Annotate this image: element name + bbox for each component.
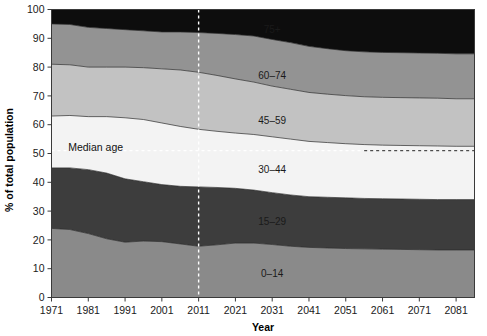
y-tick-label-70: 70: [33, 90, 45, 102]
band-label-75+: 75+: [264, 24, 281, 35]
x-tick-label-2021: 2021: [224, 304, 248, 316]
band-label-30-44: 30–44: [258, 164, 286, 175]
y-tick-label-40: 40: [33, 176, 45, 188]
y-tick-label-30: 30: [33, 205, 45, 217]
x-tick-label-2041: 2041: [297, 304, 321, 316]
x-tick-label-2011: 2011: [187, 304, 210, 316]
y-axis: 0102030405060708090100: [27, 3, 52, 303]
annotation-median-age: Median age: [68, 141, 123, 153]
y-tick-label-20: 20: [33, 234, 45, 246]
x-axis: 1971198119912001201120212031204120512061…: [40, 298, 468, 316]
y-tick-label-10: 10: [33, 262, 45, 274]
y-tick-label-90: 90: [33, 32, 45, 44]
x-tick-label-2061: 2061: [371, 304, 395, 316]
y-axis-title: % of total population: [3, 108, 15, 212]
band-label-45-59: 45–59: [258, 115, 286, 126]
annotations: Median age: [68, 141, 123, 153]
x-tick-label-1981: 1981: [77, 304, 101, 316]
band-label-15-29: 15–29: [258, 216, 286, 227]
band-label-0-14: 0–14: [261, 268, 284, 279]
x-tick-label-2081: 2081: [444, 304, 468, 316]
stacked-area-chart: 0102030405060708090100 19711981199120012…: [0, 0, 487, 336]
band-label-60-74: 60–74: [258, 70, 286, 81]
y-tick-label-80: 80: [33, 61, 45, 73]
x-tick-label-2031: 2031: [261, 304, 285, 316]
x-axis-title: Year: [252, 321, 274, 333]
y-tick-label-60: 60: [33, 118, 45, 130]
x-tick-label-2071: 2071: [408, 304, 432, 316]
x-tick-label-2001: 2001: [150, 304, 174, 316]
x-tick-label-1991: 1991: [113, 304, 137, 316]
y-tick-label-50: 50: [33, 147, 45, 159]
x-tick-label-1971: 1971: [40, 304, 64, 316]
y-tick-label-100: 100: [27, 3, 45, 15]
y-tick-label-0: 0: [39, 291, 45, 303]
chart-figure: 0102030405060708090100 19711981199120012…: [0, 0, 487, 336]
x-tick-label-2051: 2051: [334, 304, 358, 316]
